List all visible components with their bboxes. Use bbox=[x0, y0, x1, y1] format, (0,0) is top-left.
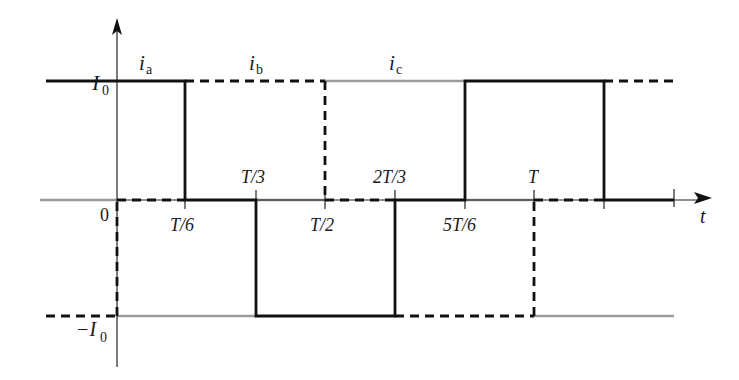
t-axis-arrow-icon bbox=[694, 192, 712, 204]
series-ic-waveform bbox=[40, 81, 674, 316]
t-axis bbox=[117, 192, 712, 204]
svg-text:I: I bbox=[91, 70, 101, 95]
svg-text:0: 0 bbox=[102, 83, 109, 98]
series-ia-waveform bbox=[46, 81, 674, 316]
tick-label-2t-3: 2T/3 bbox=[373, 167, 406, 187]
tick-label-t-2: T/2 bbox=[310, 215, 334, 235]
tick-label-t-6: T/6 bbox=[170, 215, 194, 235]
origin-label: 0 bbox=[100, 205, 109, 225]
svg-text:−I: −I bbox=[76, 318, 97, 340]
t-axis-label: t bbox=[700, 205, 706, 227]
svg-text:i: i bbox=[389, 51, 395, 75]
svg-text:i: i bbox=[249, 51, 255, 75]
svg-text:i: i bbox=[139, 51, 145, 75]
three-phase-current-diagram: I 0 −I 0 0 t i a i b i c T/3 2T/3 T T/6 … bbox=[0, 0, 739, 380]
series-ib-waveform bbox=[46, 81, 678, 316]
series-label-ib: i b bbox=[249, 51, 263, 77]
svg-text:0: 0 bbox=[100, 330, 107, 345]
series-label-ic: i c bbox=[389, 51, 402, 77]
svg-text:c: c bbox=[396, 62, 402, 77]
tick-label-5t-6: 5T/6 bbox=[443, 215, 476, 235]
y-label-minus-i0: −I 0 bbox=[76, 318, 107, 345]
svg-text:b: b bbox=[256, 62, 263, 77]
series-label-ia: i a bbox=[139, 51, 153, 77]
svg-text:a: a bbox=[146, 62, 153, 77]
tick-label-t-3: T/3 bbox=[241, 167, 265, 187]
tick-label-t: T bbox=[528, 167, 540, 187]
y-label-i0: I 0 bbox=[91, 70, 109, 98]
